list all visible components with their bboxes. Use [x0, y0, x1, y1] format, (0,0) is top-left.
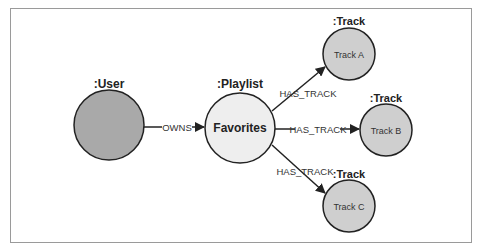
- node-name-track-a: Track A: [334, 50, 364, 60]
- node-name-track-c: Track C: [333, 202, 365, 212]
- node-type-label-track-c: :Track: [333, 168, 366, 180]
- node-circle-user: [74, 90, 144, 160]
- node-name-track-b: Track B: [371, 126, 402, 136]
- graph-diagram: OWNS HAS_TRACK HAS_TRACK HAS_TRACK :User…: [0, 0, 481, 251]
- node-type-label-user: :User: [94, 77, 125, 91]
- edge-label-has-track-b: HAS_TRACK: [289, 124, 347, 135]
- node-type-label-track-b: :Track: [370, 92, 403, 104]
- edge-label-has-track-c: HAS_TRACK: [276, 166, 334, 177]
- edge-label-owns: OWNS: [162, 122, 192, 133]
- node-type-label-track-a: :Track: [333, 15, 366, 27]
- node-type-label-playlist: :Playlist: [217, 77, 263, 91]
- edge-label-has-track-a: HAS_TRACK: [279, 88, 337, 99]
- node-name-playlist: Favorites: [213, 121, 267, 135]
